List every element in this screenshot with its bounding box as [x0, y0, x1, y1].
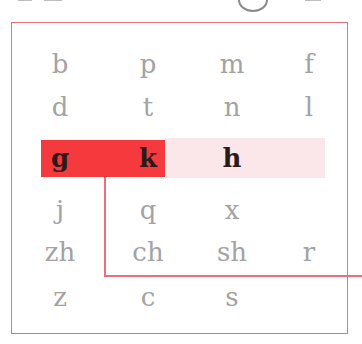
initial-cell: sh — [202, 236, 262, 268]
initial-cell: d — [30, 91, 90, 123]
initial-cell: s — [202, 281, 262, 313]
initial-cell: ch — [118, 236, 178, 268]
initial-cell: c — [118, 281, 178, 313]
heading-glyph-fragment — [18, 0, 32, 1]
initial-cell: zh — [30, 236, 90, 268]
initial-cell-active: h — [202, 142, 262, 174]
initial-cell: n — [202, 91, 262, 123]
initial-cell: l — [279, 91, 339, 123]
initial-cell-active: k — [118, 142, 178, 174]
circle-icon — [238, 0, 268, 12]
initial-cell: m — [202, 48, 262, 80]
initial-cell: j — [30, 194, 90, 226]
heading-glyph-fragment — [305, 0, 321, 1]
cropped-heading-fragment — [0, 0, 362, 6]
group-bracket-horizontal — [104, 275, 362, 277]
initial-cell: f — [279, 48, 339, 80]
initial-cell: t — [118, 91, 178, 123]
heading-glyph-fragment — [44, 0, 62, 1]
initial-cell-active: g — [30, 142, 90, 174]
initial-cell: x — [202, 194, 262, 226]
initial-cell: z — [30, 281, 90, 313]
initial-cell: q — [118, 194, 178, 226]
initial-cell: r — [279, 236, 339, 268]
group-bracket-vertical — [104, 177, 106, 276]
initial-cell: b — [30, 48, 90, 80]
initial-cell: p — [118, 48, 178, 80]
